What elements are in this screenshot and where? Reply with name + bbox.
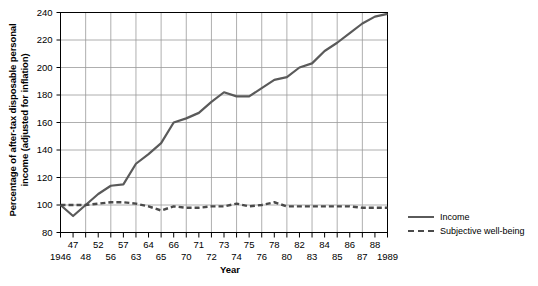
plot-area <box>0 0 538 286</box>
legend-item-subjective-well-being: Subjective well-being <box>408 224 525 238</box>
series-line-subjective-well-being <box>61 202 388 210</box>
legend-key-dashed-line-icon <box>408 230 434 232</box>
chart-figure: Percentage of after-tax disposable perso… <box>0 0 538 286</box>
legend-label-subjective-well-being: Subjective well-being <box>440 226 525 236</box>
legend-label-income: Income <box>440 212 470 222</box>
data-series <box>61 14 388 216</box>
series-line-income <box>61 14 388 216</box>
axis-tick-marks <box>57 13 388 238</box>
chart-legend: Income Subjective well-being <box>408 210 525 238</box>
legend-item-income: Income <box>408 210 525 224</box>
gridlines <box>61 13 388 233</box>
legend-key-solid-line-icon <box>408 216 434 218</box>
